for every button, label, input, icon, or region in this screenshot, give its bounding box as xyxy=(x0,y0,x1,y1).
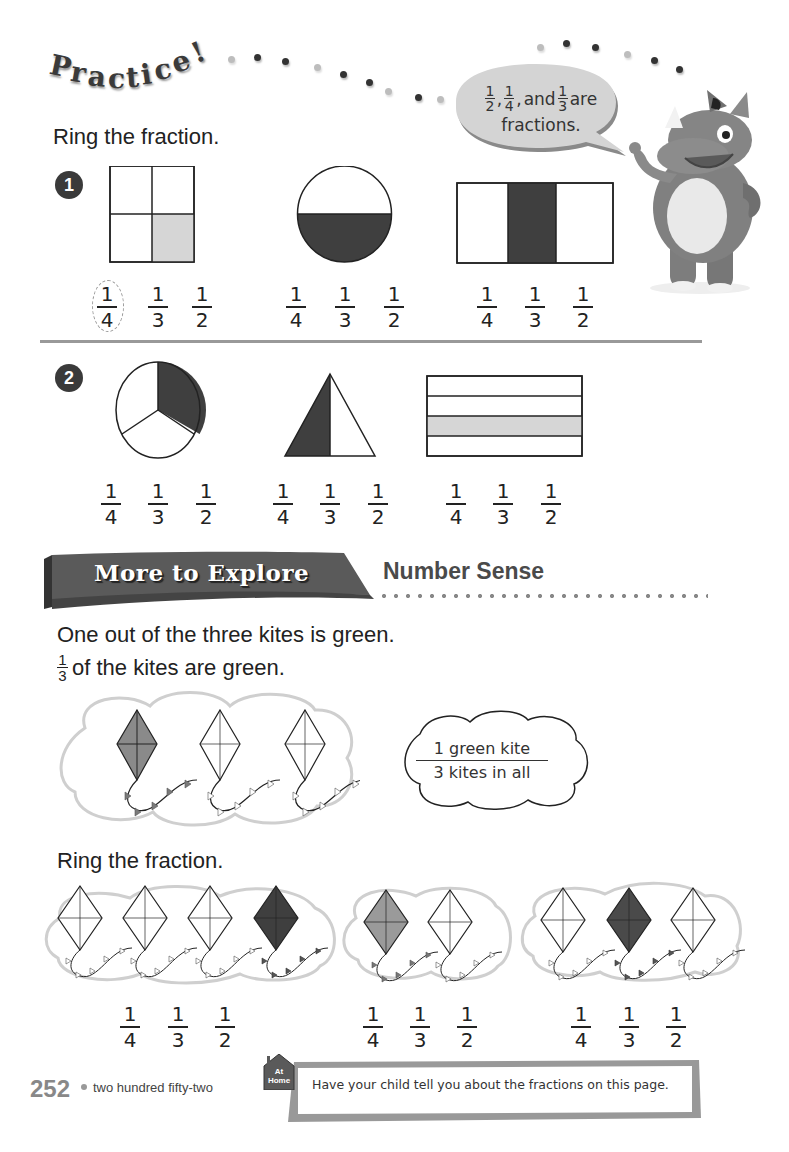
explore-line-2-text: of the kites are green. xyxy=(72,655,285,681)
bubble-frac-num: 1 xyxy=(505,84,514,98)
rhino-mascot-icon xyxy=(615,88,785,298)
fraction-choice-1-4[interactable]: 14 xyxy=(99,481,123,527)
fraction-choice-1-4[interactable]: 14 xyxy=(95,284,119,330)
page-number-words: two hundred fifty-two xyxy=(93,1080,213,1095)
fraction-choice-1-2[interactable]: 12 xyxy=(455,1004,479,1050)
banner-label: More to Explore xyxy=(94,559,309,586)
circle-halves-shape xyxy=(296,166,396,266)
fraction-choice-1-3[interactable]: 13 xyxy=(617,1004,641,1050)
fraction-choice-1-3[interactable]: 13 xyxy=(166,1004,190,1050)
dotted-rule xyxy=(378,593,708,599)
fraction-choice-1-4[interactable]: 14 xyxy=(284,284,308,330)
fraction-choice-1-2[interactable]: 12 xyxy=(190,284,214,330)
explore-instruction: Ring the fraction. xyxy=(57,848,223,874)
house-icon: At Home xyxy=(262,1054,296,1090)
explore-line-1: One out of the three kites is green. xyxy=(57,622,395,648)
at-home-note: At Home Have your child tell you about t… xyxy=(284,1060,699,1112)
fraction-choice-1-2[interactable]: 12 xyxy=(382,284,406,330)
bubble-frac-num: 1 xyxy=(558,84,567,98)
practice-instruction: Ring the fraction. xyxy=(53,124,219,150)
fraction-choice-1-3[interactable]: 13 xyxy=(491,481,515,527)
fraction-choice-1-3[interactable]: 13 xyxy=(146,481,170,527)
bubble-frac-den: 2 xyxy=(485,99,494,113)
title-letter: c xyxy=(107,62,125,96)
kite-group-1 xyxy=(40,878,340,988)
bubble-frac-den: 4 xyxy=(505,99,514,113)
bubble-frac-num: 1 xyxy=(485,84,494,98)
fraction-choice-1-2[interactable]: 12 xyxy=(664,1004,688,1050)
at-home-line1: At xyxy=(262,1067,296,1076)
circle-thirds-shape xyxy=(108,360,208,460)
example-kites-cloud xyxy=(55,688,360,828)
kite-group-2 xyxy=(336,878,516,988)
page-number: 252 xyxy=(30,1075,70,1103)
fraction-choice-1-2[interactable]: 12 xyxy=(194,481,218,527)
cloud-denominator: 3 kites in all xyxy=(412,763,552,782)
rectangle-thirds-shape xyxy=(456,182,616,266)
at-home-text: Have your child tell you about the fract… xyxy=(312,1077,669,1092)
cloud-fraction: 1 green kite 3 kites in all xyxy=(412,739,552,782)
triangle-halves-shape xyxy=(282,372,382,462)
fraction-denominator: 3 xyxy=(58,668,66,683)
fraction-choice-1-4[interactable]: 14 xyxy=(271,481,295,527)
fraction-choice-1-4[interactable]: 14 xyxy=(118,1004,142,1050)
fraction-numerator: 1 xyxy=(58,652,66,667)
fraction-choice-1-3[interactable]: 13 xyxy=(523,284,547,330)
cloud-numerator: 1 green kite xyxy=(412,739,552,758)
fraction-choice-1-2[interactable]: 12 xyxy=(366,481,390,527)
bubble-line2: fractions. xyxy=(466,115,616,135)
title-letter: t xyxy=(125,61,140,95)
bubble-frac-den: 3 xyxy=(558,99,567,113)
problem-number-badge: 2 xyxy=(55,364,83,392)
at-home-line2: Home xyxy=(262,1076,296,1085)
fraction-choice-1-4[interactable]: 14 xyxy=(444,481,468,527)
fraction-choice-1-3[interactable]: 13 xyxy=(333,284,357,330)
bubble-are: are xyxy=(570,89,598,109)
number-sense-title: Number Sense xyxy=(383,558,544,585)
problem-number-badge: 1 xyxy=(55,171,83,199)
fraction-choice-1-3[interactable]: 13 xyxy=(408,1004,432,1050)
fraction-choice-1-3[interactable]: 13 xyxy=(318,481,342,527)
fraction-choice-1-2[interactable]: 12 xyxy=(539,481,563,527)
bullet-dot xyxy=(81,1084,87,1090)
fraction-choice-1-4[interactable]: 14 xyxy=(569,1004,593,1050)
fraction-choice-1-4[interactable]: 14 xyxy=(475,284,499,330)
explore-line-2: 1 3 of the kites are green. xyxy=(57,652,285,683)
kite-group-3 xyxy=(515,876,755,986)
fraction-choice-1-2[interactable]: 12 xyxy=(571,284,595,330)
fraction-choice-1-2[interactable]: 12 xyxy=(213,1004,237,1050)
square-quarters-shape xyxy=(102,166,206,266)
fraction-choice-1-3[interactable]: 13 xyxy=(146,284,170,330)
practice-title: P r a c t i c e ! xyxy=(50,42,230,112)
speech-bubble: 1 2 , 1 4 , and 1 3 are fractions. xyxy=(446,60,626,160)
bubble-and: and xyxy=(524,89,556,109)
rectangle-fourths-shape xyxy=(426,375,586,461)
more-to-explore-banner: More to Explore xyxy=(44,549,374,607)
fraction-choice-1-4[interactable]: 14 xyxy=(361,1004,385,1050)
section-divider xyxy=(40,340,702,343)
title-letter: a xyxy=(86,59,108,94)
